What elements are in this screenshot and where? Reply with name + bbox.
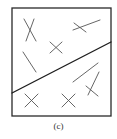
mark-top-left-x: [24, 19, 36, 41]
mark-stroke: [88, 72, 99, 95]
figure-caption: (c): [0, 120, 117, 132]
marks-group: [23, 19, 100, 107]
mark-lower-right-x: [86, 72, 99, 96]
mark-center-small-x: [50, 42, 62, 53]
mark-stroke: [73, 63, 98, 82]
mark-stroke: [74, 23, 86, 32]
mark-top-right-crossed-line: [73, 20, 100, 32]
mark-left-single-slash: [23, 52, 36, 72]
diagram-canvas: [0, 0, 117, 139]
diagonal-divider-line: [12, 42, 111, 93]
mark-bottom-middle-x: [62, 94, 75, 107]
mark-bottom-left-x: [25, 94, 38, 107]
mark-lower-right-long-line: [73, 63, 98, 82]
mark-stroke: [26, 19, 34, 41]
mark-stroke: [23, 52, 36, 72]
figure-panel-c: (c): [0, 0, 117, 139]
